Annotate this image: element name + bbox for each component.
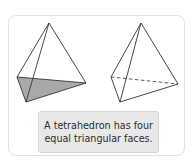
- tetrahedron-hidden-edge: [111, 23, 178, 102]
- caption-box: A tetrahedron has four equal triangular …: [38, 111, 159, 153]
- caption-line-1: A tetrahedron has four: [44, 119, 153, 132]
- edge-apex-right: [141, 23, 178, 84]
- tetrahedron-shaded-base: [17, 23, 86, 102]
- edge-front-right: [120, 84, 178, 102]
- edge-apex-right: [49, 23, 86, 83]
- edge-left-front: [111, 77, 120, 102]
- caption-line-2: equal triangular faces.: [44, 132, 152, 145]
- edge-apex-left: [111, 23, 141, 77]
- hidden-back-edge: [111, 77, 178, 84]
- edge-apex-front: [120, 23, 141, 102]
- edge-apex-left: [17, 23, 49, 77]
